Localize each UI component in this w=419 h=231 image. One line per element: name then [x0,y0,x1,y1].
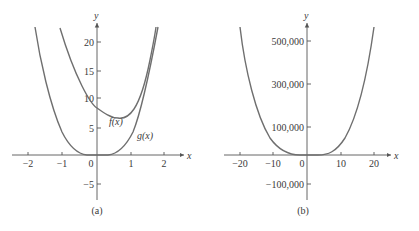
y-tick-label: 300,000 [272,79,305,90]
y-tick-label: 5 [89,123,94,134]
x-tick-label: 1 [129,158,134,169]
x-tick-label: 2 [162,158,167,169]
x-tick-label: −2 [23,158,34,169]
x-tick-label: 10 [336,158,346,169]
label-g: g(x) [137,130,154,142]
y-tick-label: −5 [83,179,94,190]
x-tick-label: −20 [232,158,248,169]
x-tick-label: −10 [265,158,281,169]
figure: x y −2 −1 0 1 2 20 15 10 5 −5 f(x) [0,0,419,231]
y-tick-label: 500,000 [272,36,305,47]
x-tick-label: −1 [57,158,68,169]
x-tick-label: 0 [300,158,305,169]
panel-b: x y −20 −10 0 10 20 500,000 300,000 100,… [224,10,399,217]
caption-a: (a) [91,205,102,217]
y-tick-label: 20 [84,37,94,48]
y-tick-label: −100,000 [266,179,304,190]
y-tick-label: 15 [84,66,94,77]
y-tick-label: 100,000 [272,122,305,133]
x-axis-label-b: x [393,150,399,161]
x-tick-label: 20 [369,158,379,169]
x-axis-label-a: x [186,150,192,161]
x-tick-label: 0 [89,158,94,169]
caption-b: (b) [297,205,309,217]
y-axis-label-b: y [303,10,309,21]
panel-a: x y −2 −1 0 1 2 20 15 10 5 −5 f(x) [12,10,192,217]
y-axis-label-a: y [93,10,99,21]
label-f: f(x) [109,116,124,128]
